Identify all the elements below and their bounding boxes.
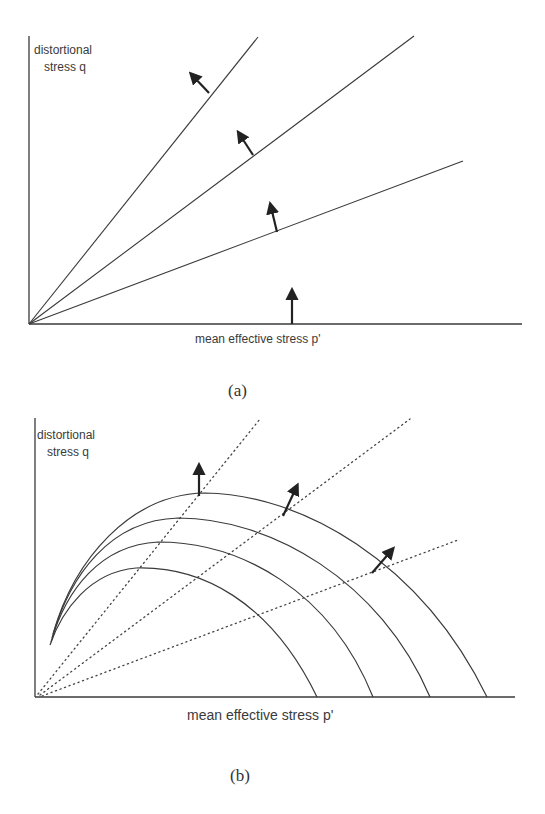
panel-b-dotted-stress-paths: [38, 419, 458, 696]
panel-b-caption: (b): [230, 766, 250, 786]
panel-b-x-axis-label: mean effective stress p': [187, 707, 333, 723]
panel-a-stress-ratio-lines: [29, 36, 463, 324]
panel-a-y-label-line1: distortional: [34, 43, 92, 57]
panel-a-x-axis-label: mean effective stress p': [195, 332, 320, 346]
yield-curve-2: [51, 542, 373, 697]
panel-b-diagram: [35, 418, 515, 697]
panel-a-caption: (a): [228, 381, 247, 401]
arrow-icon: [193, 76, 209, 93]
dotted-ray-middle: [40, 419, 410, 695]
panel-a-y-label-line2: stress q: [34, 59, 92, 76]
arrow-icon: [372, 551, 391, 573]
panel-b-y-label-line2: stress q: [37, 444, 95, 461]
dotted-ray-shallow: [42, 540, 458, 696]
panel-b-yield-curves: [50, 493, 487, 697]
yield-curve-1-inner: [50, 568, 317, 697]
panel-b-y-label-line1: distortional: [37, 428, 95, 442]
arrow-icon: [271, 207, 277, 232]
panel-a-y-axis-label: distortional stress q: [34, 42, 92, 76]
figure-canvas: [0, 0, 545, 814]
panel-b-arrows: [199, 468, 391, 573]
panel-b-y-axis-label: distortional stress q: [37, 427, 95, 461]
ray-middle: [29, 36, 414, 324]
yield-curve-4-outer: [53, 493, 487, 697]
panel-a-diagram: [29, 36, 522, 324]
arrow-icon: [240, 135, 253, 155]
panel-a-arrows: [193, 76, 292, 324]
